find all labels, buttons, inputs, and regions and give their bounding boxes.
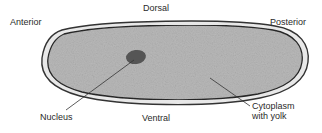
label-nucleus: Nucleus (40, 112, 73, 122)
label-anterior: Anterior (10, 17, 42, 27)
label-cytoplasm-line1: Cytoplasm (252, 101, 295, 111)
label-cytoplasm-with-yolk: Cytoplasm with yolk (252, 101, 295, 121)
label-posterior: Posterior (270, 17, 306, 27)
cytoplasm-with-yolk-region (48, 25, 303, 100)
egg-diagram: Anterior Dorsal Posterior Nucleus Ventra… (0, 0, 322, 133)
label-cytoplasm-line2: with yolk (252, 111, 295, 121)
label-dorsal: Dorsal (143, 3, 169, 13)
label-ventral: Ventral (142, 113, 170, 123)
